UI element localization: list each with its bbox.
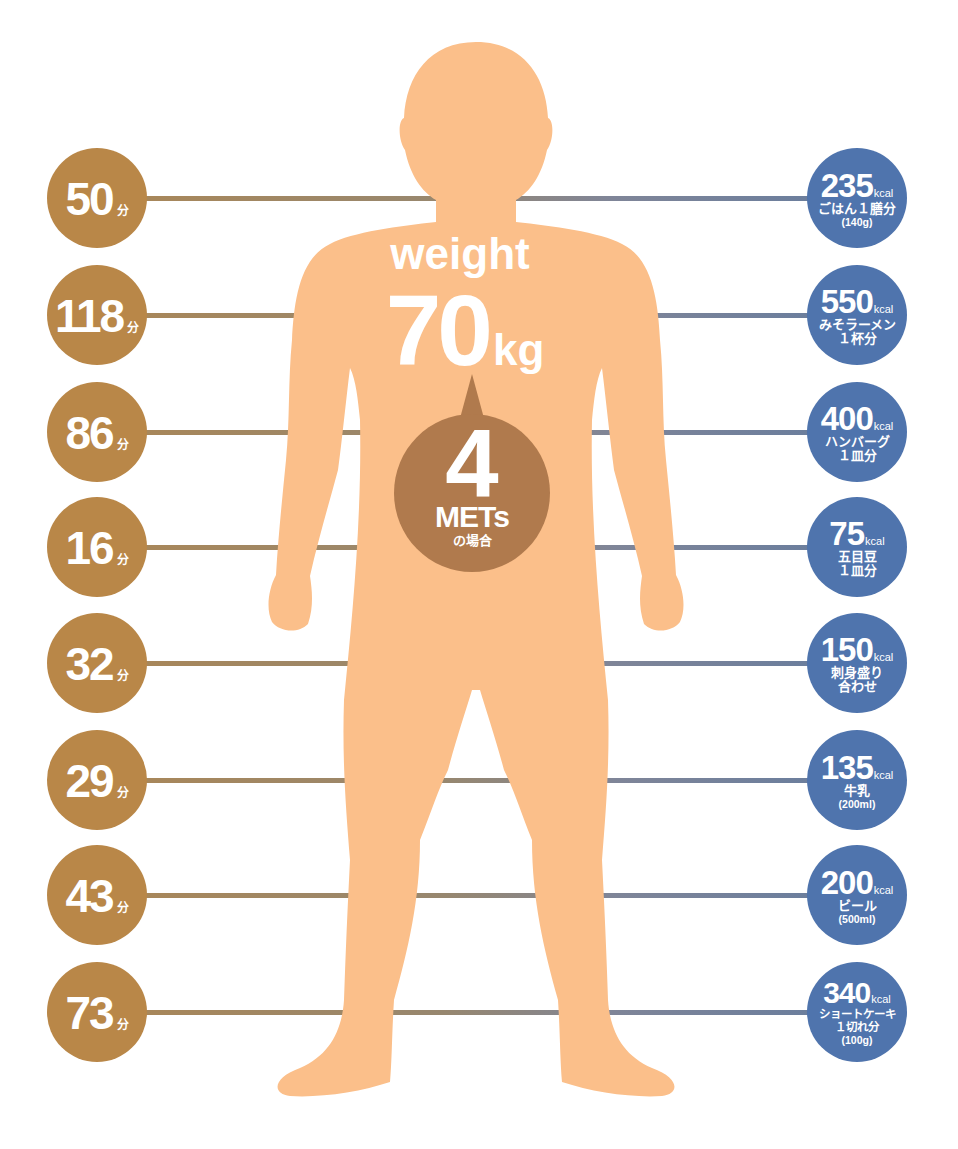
- minutes-value: 16: [65, 525, 112, 571]
- minutes-unit: 分: [117, 666, 129, 683]
- kcal-value: 550: [821, 285, 873, 318]
- food-portion: １切れ分: [835, 1021, 879, 1034]
- calorie-badge: 340kcal ショートケーキ １切れ分 (100g): [807, 962, 907, 1062]
- kcal-unit: kcal: [871, 994, 891, 1005]
- food-name: ショートケーキ: [819, 1008, 896, 1021]
- food-name: 刺身盛り: [831, 666, 883, 680]
- kcal-value: 235: [821, 169, 873, 202]
- kcal-value: 400: [821, 402, 873, 435]
- minutes-badge: 32分: [47, 613, 147, 713]
- kcal-value: 150: [821, 633, 873, 666]
- mets-sub-label: の場合: [394, 534, 550, 547]
- kcal-value: 135: [821, 751, 873, 784]
- food-amount: １皿分: [838, 564, 877, 578]
- kcal-value: 75: [829, 517, 864, 550]
- mets-label: METs: [394, 502, 550, 532]
- minutes-badge: 29分: [47, 730, 147, 830]
- minutes-unit: 分: [127, 318, 139, 335]
- mets-value: 4: [394, 416, 550, 512]
- food-name: 牛乳: [844, 784, 870, 798]
- food-amount: (140g): [842, 216, 873, 228]
- calorie-badge: 235kcal ごはん１膳分 (140g): [807, 148, 907, 248]
- minutes-unit: 分: [117, 898, 129, 915]
- minutes-badge: 16分: [47, 497, 147, 597]
- kcal-unit: kcal: [874, 421, 894, 432]
- minutes-value: 86: [65, 410, 112, 456]
- calorie-badge: 150kcal 刺身盛り 合わせ: [807, 613, 907, 713]
- food-name: みそラーメン: [819, 318, 896, 332]
- minutes-value: 32: [65, 641, 112, 687]
- food-amount: １皿分: [838, 449, 877, 463]
- food-amount: (100g): [842, 1034, 873, 1046]
- calorie-badge: 550kcal みそラーメン １杯分: [807, 265, 907, 365]
- minutes-value: 73: [65, 990, 112, 1036]
- minutes-unit: 分: [117, 435, 129, 452]
- minutes-badge: 50分: [47, 148, 147, 248]
- kcal-unit: kcal: [874, 770, 894, 781]
- minutes-value: 43: [65, 873, 112, 919]
- calorie-badge: 135kcal 牛乳 (200ml): [807, 730, 907, 830]
- minutes-badge: 43分: [47, 845, 147, 945]
- mets-bubble: 4 METs の場合: [394, 414, 550, 572]
- minutes-value: 50: [65, 176, 112, 222]
- minutes-unit: 分: [117, 1015, 129, 1032]
- minutes-unit: 分: [117, 783, 129, 800]
- food-name: ごはん１膳分: [818, 202, 896, 216]
- calorie-badge: 200kcal ビール (500ml): [807, 845, 907, 945]
- minutes-unit: 分: [117, 550, 129, 567]
- kcal-unit: kcal: [874, 885, 894, 896]
- calorie-badge: 75kcal 五目豆 １皿分: [807, 497, 907, 597]
- calorie-badge: 400kcal ハンバーグ １皿分: [807, 382, 907, 482]
- kcal-value: 340: [823, 978, 870, 1008]
- food-name: ビール: [838, 899, 877, 913]
- food-name: 五目豆: [838, 550, 877, 564]
- kcal-value: 200: [821, 866, 873, 899]
- food-amount: (500ml): [839, 913, 876, 925]
- minutes-value: 118: [55, 293, 123, 339]
- food-amount: 合わせ: [838, 680, 877, 694]
- kcal-unit: kcal: [874, 188, 894, 199]
- minutes-unit: 分: [117, 201, 129, 218]
- minutes-badge: 86分: [47, 382, 147, 482]
- infographic: weight 70 kg 4 METs の場合 50分 118分 86分 16分…: [0, 0, 958, 1149]
- minutes-value: 29: [65, 758, 112, 804]
- kcal-unit: kcal: [874, 304, 894, 315]
- food-amount: (200ml): [839, 798, 876, 810]
- weight-label: weight: [360, 232, 560, 276]
- kcal-unit: kcal: [865, 536, 885, 547]
- weight-number: 70: [386, 280, 489, 380]
- minutes-badge: 73分: [47, 962, 147, 1062]
- food-amount: １杯分: [838, 332, 877, 346]
- food-name: ハンバーグ: [825, 435, 890, 449]
- weight-unit: kg: [493, 325, 544, 375]
- kcal-unit: kcal: [874, 652, 894, 663]
- minutes-badge: 118分: [47, 265, 147, 365]
- weight-value: 70 kg: [360, 280, 570, 380]
